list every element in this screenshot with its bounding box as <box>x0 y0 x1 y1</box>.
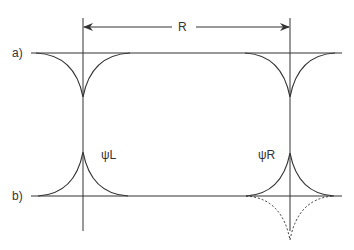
r-label: R <box>178 20 187 34</box>
row-b-label: b) <box>12 189 23 203</box>
psi-left-label: ψL <box>101 148 117 162</box>
psi-right-label: ψR <box>258 148 276 162</box>
diagram-canvas: R a) b) ψL ψR <box>0 0 354 250</box>
row-a-label: a) <box>12 46 23 60</box>
